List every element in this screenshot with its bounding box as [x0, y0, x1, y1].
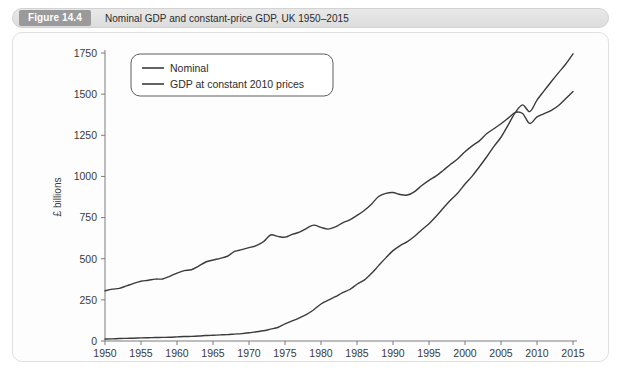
x-tick-label-1: 1955 — [129, 347, 153, 359]
y-tick-label-7: 1750 — [74, 47, 98, 59]
x-tick-label-13: 2015 — [561, 347, 585, 359]
y-tick-label-2: 500 — [79, 253, 97, 265]
x-tick-label-7: 1985 — [345, 347, 369, 359]
x-tick-label-0: 1950 — [93, 347, 117, 359]
y-tick-label-1: 250 — [79, 294, 97, 306]
y-axis-title: £ billions — [52, 178, 63, 217]
x-tick-label-5: 1975 — [273, 347, 297, 359]
x-tick-label-2: 1960 — [165, 347, 189, 359]
x-tick-label-8: 1990 — [381, 347, 405, 359]
chart-legend: NominalGDP at constant 2010 prices — [131, 54, 333, 96]
series-line-constant-prices — [105, 92, 573, 291]
chart-panel: 02505007501000125015001750 1950195519601… — [12, 32, 609, 362]
x-tick-label-3: 1965 — [201, 347, 225, 359]
series-line-nominal — [105, 54, 573, 339]
legend-label-0: Nominal — [170, 62, 209, 74]
y-axis: 02505007501000125015001750 — [74, 47, 105, 347]
figure-number-badge: Figure 14.4 — [19, 10, 91, 26]
figure-title: Nominal GDP and constant-price GDP, UK 1… — [105, 13, 349, 24]
legend-label-1: GDP at constant 2010 prices — [170, 78, 304, 90]
x-tick-label-10: 2000 — [453, 347, 477, 359]
x-tick-label-4: 1970 — [237, 347, 261, 359]
y-tick-label-4: 1000 — [74, 170, 98, 182]
y-tick-label-6: 1500 — [74, 88, 98, 100]
figure-header: Figure 14.4 Nominal GDP and constant-pri… — [12, 8, 609, 28]
y-tick-label-0: 0 — [91, 335, 97, 347]
data-series-group — [105, 54, 573, 339]
x-tick-label-9: 1995 — [417, 347, 441, 359]
x-tick-label-12: 2010 — [525, 347, 549, 359]
y-tick-label-5: 1250 — [74, 129, 98, 141]
y-tick-label-3: 750 — [79, 211, 97, 223]
line-chart: 02505007501000125015001750 1950195519601… — [13, 33, 609, 362]
x-tick-label-6: 1980 — [309, 347, 333, 359]
x-tick-label-11: 2005 — [489, 347, 513, 359]
x-axis: 1950195519601965197019751980198519901995… — [93, 341, 585, 359]
